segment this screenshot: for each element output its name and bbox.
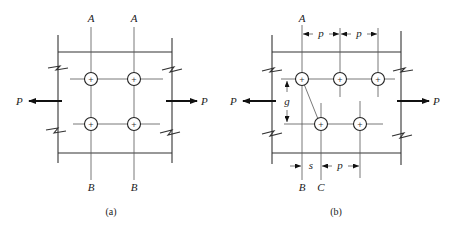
load-label-right: P [432,95,440,107]
svg-text:+: + [375,76,381,84]
break-mark-icon [262,131,282,136]
break-mark-icon [46,128,66,133]
pitch-label-bottom: p [336,159,343,171]
plate-a [46,35,182,163]
bolt-icon: + [128,118,141,131]
break-mark-icon [48,66,68,70]
break-mark-icon [393,68,413,72]
section-label-c: C [317,181,325,193]
bolted-connection-diagrams: + + + + P P A A B B (a) [0,0,459,229]
svg-text:+: + [318,121,324,129]
svg-text:+: + [337,76,343,84]
figure-b: + + + + + p p g s p P P [229,12,440,218]
section-label-b1: B [88,181,95,193]
section-label-a: A [298,12,306,24]
break-mark-icon [392,133,412,138]
bolt-icon: + [315,118,328,131]
gage-label: g [284,95,290,107]
bolt-icon: + [128,73,141,86]
bolt-icon: + [372,73,385,86]
svg-text:+: + [88,76,94,84]
bolt-icon: + [296,73,309,86]
svg-text:+: + [131,121,137,129]
figure-a: + + + + P P A A B B (a) [15,12,208,218]
break-mark-icon [160,130,180,135]
section-label-a2: A [130,12,138,24]
bolt-icon: + [85,73,98,86]
figure-caption-b: (b) [330,206,342,218]
stagger-label: s [309,159,313,171]
bolt-icon: + [334,73,347,86]
load-label-left: P [229,95,237,107]
break-mark-icon [262,68,282,72]
pitch-label-1: p [317,27,324,39]
pitch-label-2: p [355,27,362,39]
svg-text:+: + [357,121,363,129]
break-mark-icon [162,67,182,72]
svg-text:+: + [131,76,137,84]
bolt-icon: + [354,118,367,131]
figure-caption-a: (a) [105,206,116,218]
bolt-icon: + [85,118,98,131]
section-label-a1: A [87,12,95,24]
section-label-b: B [299,181,306,193]
svg-text:+: + [299,76,305,84]
svg-text:+: + [88,121,94,129]
section-label-b2: B [131,181,138,193]
load-label-left: P [15,95,23,107]
load-label-right: P [200,95,208,107]
